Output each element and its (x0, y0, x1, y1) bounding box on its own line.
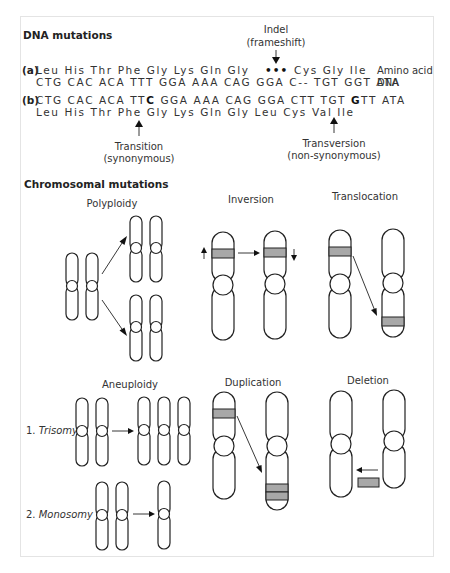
deleted-segment (358, 478, 379, 487)
mutation-types-figure: DNA mutations Indel (frameshift) (a) Leu… (0, 0, 450, 573)
trisomy-label: 1. Trisomy (26, 425, 79, 436)
chromosome (212, 232, 234, 340)
row-a-dna: CTG CAC ACA TTT GGA AAA CAG GGA C-- TGT … (36, 76, 400, 88)
inversion-label: Inversion (228, 194, 274, 205)
row-a-gap-dots: ••• (265, 64, 288, 76)
row-a-amino-acids: Leu His Thr Phe Gly Lys Gln Gly (36, 64, 250, 76)
chromosome (130, 216, 142, 282)
chromosome (86, 253, 98, 320)
indel-sublabel: (frameshift) (246, 37, 305, 48)
duplication-label: Duplication (225, 377, 282, 388)
transversion-label: Transversion (301, 138, 365, 149)
transition-label: Transition (114, 141, 163, 152)
translocation-label: Translocation (331, 191, 398, 202)
amino-acid-label: Amino acid (377, 65, 433, 76)
chromosome (329, 230, 351, 338)
chromosome (330, 391, 352, 497)
row-a-amino-after: Cys Gly Ile (294, 64, 367, 76)
chromosome (150, 295, 162, 361)
chromosome (213, 392, 235, 499)
chromosome (150, 216, 162, 282)
transversion-base: G (351, 94, 361, 106)
chromosome (158, 397, 170, 465)
chromosomal-mutations-title: Chromosomal mutations (24, 178, 169, 190)
chromosome (96, 482, 108, 550)
monosomy-label: 2. Monosomy (26, 509, 94, 520)
deletion-label: Deletion (347, 375, 389, 386)
chromosome (264, 231, 286, 339)
row-b-dna: CTG CAC ACA TTC GGA AAA CAG GGA CTT TGT … (36, 94, 406, 106)
transition-base: C (146, 94, 155, 106)
chromosome (382, 229, 404, 337)
dna-mutations-title: DNA mutations (23, 29, 112, 41)
chromosome (66, 253, 78, 320)
transversion-sublabel: (non-synonymous) (287, 150, 381, 161)
row-b-amino-acids: Leu His Thr Phe Gly Lys Gln Gly Leu Cys … (36, 106, 355, 118)
chromosome (383, 390, 405, 488)
chromosome (76, 398, 88, 466)
polyploidy-label: Polyploidy (87, 198, 138, 209)
chromosome (130, 295, 142, 361)
chromosome (116, 482, 128, 550)
chromosome (138, 397, 150, 465)
aneuploidy-label: Aneuploidy (102, 379, 158, 390)
chromosome (266, 392, 288, 510)
transition-sublabel: (synonymous) (103, 153, 174, 164)
chromosome (96, 398, 108, 466)
dna-label: DNA (377, 77, 399, 88)
indel-label: Indel (264, 24, 289, 35)
chromosome (158, 481, 170, 549)
chromosome (178, 397, 190, 465)
